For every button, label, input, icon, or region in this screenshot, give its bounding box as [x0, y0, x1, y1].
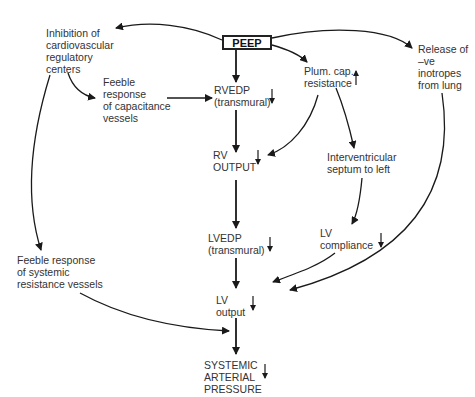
rvedp-node: RVEDP (transmural): [214, 84, 271, 108]
feeble-capacitance-node: Feeble response of capacitance vessels: [103, 76, 171, 124]
lv-output-node: LV output: [216, 294, 245, 318]
plum-cap-node: Plum. cap. resistance: [304, 65, 354, 89]
release-inotropes-node: Release of –ve inotropes from lung: [418, 43, 468, 91]
interventricular-node: Interventricular septum to left: [327, 151, 396, 175]
lvedp-node: LVEDP (transmural): [208, 232, 265, 256]
systemic-pressure-node: SYSTEMIC ARTERIAL PRESSURE: [204, 359, 262, 395]
feeble-systemic-node: Feeble response of systemic resistance v…: [17, 254, 103, 290]
rv-output-node: RV OUTPUT: [213, 149, 256, 173]
peep-node: PEEP: [222, 35, 272, 50]
lv-compliance-node: LV compliance: [320, 227, 373, 251]
inhibition-node: Inhibition of cardiovascular regulatory …: [46, 27, 114, 75]
